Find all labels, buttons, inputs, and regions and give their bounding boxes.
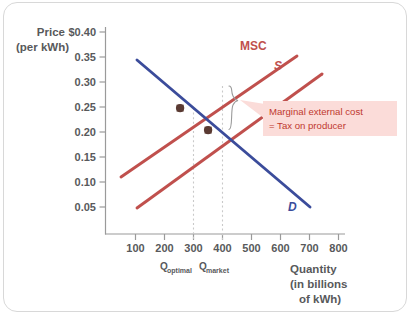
y-tick-label-030: 0.30 [75, 76, 96, 88]
callout-pointer [240, 100, 265, 119]
x-tick-label-200: 200 [155, 242, 173, 254]
callout-line1: Marginal external cost [269, 106, 363, 117]
demand-curve-label: D [288, 200, 297, 214]
y-axis-ticks [100, 32, 106, 207]
supply-curve [137, 74, 322, 208]
marker-q-market [204, 126, 212, 134]
y-tick-label-020: 0.20 [75, 126, 96, 138]
y-tick-label-005: 0.05 [75, 201, 96, 213]
x-tick-label-500: 500 [242, 242, 260, 254]
x-axis-title-line3: of kWh) [299, 293, 341, 305]
y-tick-label-025: 0.25 [75, 101, 96, 113]
marker-q-optimal [176, 104, 184, 112]
plot-area: $0.40 0.35 0.30 0.25 0.20 0.15 0.10 0.05… [0, 0, 413, 317]
q-market-subscript: market [206, 267, 230, 274]
y-tick-label-040: $0.40 [68, 26, 96, 38]
y-tick-label-010: 0.10 [75, 176, 96, 188]
x-tick-label-600: 600 [271, 242, 289, 254]
x-tick-label-800: 800 [329, 242, 347, 254]
y-axis-title-line2: (per kWh) [16, 41, 69, 53]
external-cost-brace [229, 86, 238, 130]
q-market-label: Q market [199, 261, 230, 274]
supply-curve-label: S [274, 59, 282, 73]
x-tick-label-100: 100 [126, 242, 144, 254]
q-optimal-label: Q optimal [160, 261, 192, 275]
msc-curve-label: MSC [240, 39, 267, 53]
x-axis-title-line2: (in billions [290, 278, 348, 290]
external-cost-callout: Marginal external cost = Tax on producer [263, 101, 397, 136]
callout-line2: = Tax on producer [269, 120, 347, 131]
x-axis-title-line1: Quantity [290, 263, 337, 275]
x-tick-label-400: 400 [213, 242, 231, 254]
y-tick-label-035: 0.35 [75, 51, 96, 63]
q-optimal-subscript: optimal [167, 267, 192, 275]
y-axis-title-line1: Price [37, 26, 65, 38]
x-tick-label-700: 700 [300, 242, 318, 254]
x-axis-ticks [136, 234, 339, 240]
x-tick-label-300: 300 [184, 242, 202, 254]
economics-chart-figure: $0.40 0.35 0.30 0.25 0.20 0.15 0.10 0.05… [0, 0, 413, 317]
y-tick-label-015: 0.15 [75, 151, 96, 163]
